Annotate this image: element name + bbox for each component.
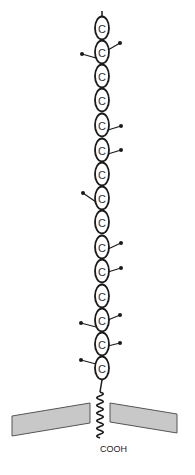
c-domain: C	[95, 114, 109, 137]
c-domain: C	[95, 236, 109, 259]
side-chain-dot-icon	[119, 241, 123, 245]
side-chain-line	[108, 268, 121, 272]
c-domain: C	[95, 41, 109, 64]
c-domain-label: C	[98, 47, 106, 59]
membrane-left-segment	[12, 403, 90, 436]
carbohydrate-side-chain-left	[79, 358, 96, 364]
c-domain-label: C	[98, 169, 106, 181]
carbohydrate-side-chain-right	[108, 148, 123, 154]
c-domain: C	[95, 211, 109, 234]
side-chain-line	[81, 323, 96, 327]
c-domain: C	[95, 139, 109, 162]
c-domain-label: C	[98, 291, 106, 303]
side-chain-dot-icon	[81, 191, 85, 195]
side-chain-dot-icon	[79, 358, 83, 362]
side-chain-dot-icon	[80, 52, 84, 56]
side-chain-line	[108, 150, 121, 154]
side-chain-line	[83, 193, 96, 202]
c-domain: C	[95, 89, 109, 112]
c-domain-label: C	[98, 145, 106, 157]
side-chain-dot-icon	[118, 41, 122, 45]
c-domain-label: C	[98, 217, 106, 229]
transmembrane-helix	[97, 392, 103, 438]
c-domain-label: C	[98, 95, 106, 107]
c-domain-label: C	[98, 71, 106, 83]
c-domain: C	[95, 163, 109, 186]
c-domain: C	[95, 17, 109, 40]
c-domain-label: C	[98, 339, 106, 351]
c-domain-label: C	[98, 363, 106, 375]
carbohydrate-side-chain-left	[79, 321, 96, 327]
carbohydrate-side-chain-left	[80, 52, 96, 58]
side-chain-dot-icon	[118, 341, 122, 345]
transmembrane-domain	[97, 392, 103, 438]
carbohydrate-side-chain-left	[81, 191, 96, 202]
side-chain-dot-icon	[118, 313, 122, 317]
side-chain-line	[82, 54, 96, 58]
side-chain-dot-icon	[119, 148, 123, 152]
side-chain-line	[108, 43, 120, 50]
carbohydrate-side-chain-right	[108, 124, 123, 130]
side-chain-line	[108, 243, 121, 249]
juxtamembrane-stalk	[100, 380, 102, 392]
side-chain-dot-icon	[119, 124, 123, 128]
membrane-right-segment	[110, 403, 177, 433]
c-domain-label: C	[98, 193, 106, 205]
c-domain-label: C	[98, 23, 106, 35]
cell-membrane	[12, 403, 177, 436]
c-domain: C	[95, 285, 109, 308]
c-domain-label: C	[98, 120, 106, 132]
c-domain: C	[95, 65, 109, 88]
c-domain: C	[95, 260, 109, 283]
carbohydrate-side-chain-right	[108, 341, 122, 346]
side-chain-line	[108, 126, 121, 130]
carbohydrate-side-chain-right	[108, 241, 123, 249]
side-chain-line	[81, 360, 96, 364]
side-chain-dot-icon	[119, 266, 123, 270]
cooh-terminal-label: COOH	[100, 444, 127, 454]
c-domain: C	[95, 357, 109, 380]
c-domain-label: C	[98, 266, 106, 278]
carbohydrate-side-chain-right	[108, 313, 122, 320]
carbohydrate-side-chain-right	[108, 41, 122, 50]
c-domain: C	[95, 187, 109, 210]
c-domain: C	[95, 309, 109, 332]
c-domain: C	[95, 333, 109, 356]
c-domain-label: C	[98, 242, 106, 254]
c-domain-label: C	[98, 315, 106, 327]
side-chain-dot-icon	[79, 321, 83, 325]
glycoprotein-diagram: CCCCCCCCCCCCCCC COOH	[0, 0, 195, 475]
protein-chain: CCCCCCCCCCCCCCC	[95, 11, 109, 392]
carbohydrate-side-chain-right	[108, 266, 123, 272]
